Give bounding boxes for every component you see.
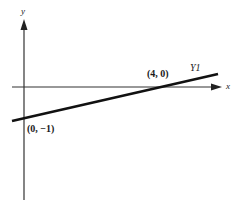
y-intercept-label: (0, −1) <box>27 124 54 134</box>
series-line-y1 <box>12 74 218 121</box>
x-axis-arrow-icon <box>211 84 222 91</box>
y-axis-arrow-icon <box>21 19 28 30</box>
y-axis-label: y <box>21 7 25 16</box>
x-axis-label: x <box>226 82 230 91</box>
series-label-y1: Y1 <box>190 63 201 73</box>
graph-figure: y x (4, 0) Y1 (0, −1) <box>0 0 238 210</box>
x-intercept-label: (4, 0) <box>147 69 169 79</box>
graph-canvas <box>0 0 238 210</box>
